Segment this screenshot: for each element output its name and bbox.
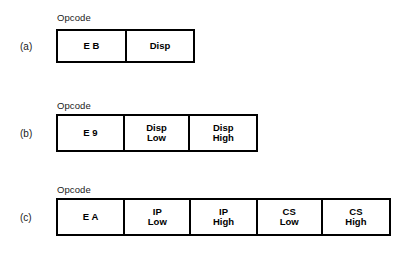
field-box-c: E A IP Low IP High CS Low CS High	[56, 198, 391, 236]
field-box-b: E 9 Disp Low Disp High	[56, 114, 258, 152]
field-cell-c-opcode: E A	[58, 200, 125, 234]
field-cell-c-ip-low-line2: Low	[148, 217, 167, 228]
row-label-a: (a)	[20, 41, 32, 52]
field-cell-c-ip-high-line2: High	[213, 217, 234, 228]
field-cell-c-opcode-line1: E A	[83, 212, 98, 223]
field-cell-c-cs-high: CS High	[323, 200, 389, 234]
opcode-header-label-b: Opcode	[57, 100, 91, 111]
field-cell-c-cs-high-line2: High	[345, 217, 366, 228]
field-cell-b-opcode-line1: E 9	[83, 128, 97, 139]
field-cell-c-cs-low-line2: Low	[280, 217, 299, 228]
field-cell-a-disp: Disp	[127, 31, 193, 61]
instruction-format-diagram: Opcode (a) E B Disp Opcode (b) E 9 Disp …	[0, 0, 416, 256]
field-cell-b-disp-high: Disp High	[190, 116, 256, 150]
field-cell-c-ip-high: IP High	[191, 200, 257, 234]
opcode-header-label-a: Opcode	[57, 12, 91, 23]
field-cell-b-opcode: E 9	[58, 116, 125, 150]
row-label-c: (c)	[20, 212, 32, 223]
opcode-header-label-c: Opcode	[57, 184, 91, 195]
field-cell-b-disp-high-line2: High	[213, 133, 234, 144]
field-cell-b-disp-low-line2: Low	[147, 133, 166, 144]
field-cell-a-opcode-line1: E B	[84, 41, 100, 52]
field-cell-b-disp-low: Disp Low	[125, 116, 191, 150]
field-cell-c-ip-low: IP Low	[125, 200, 191, 234]
field-box-a: E B Disp	[56, 29, 195, 63]
field-cell-a-disp-line1: Disp	[150, 41, 171, 52]
field-cell-c-cs-low: CS Low	[258, 200, 323, 234]
field-cell-a-opcode: E B	[58, 31, 127, 61]
row-label-b: (b)	[20, 128, 32, 139]
